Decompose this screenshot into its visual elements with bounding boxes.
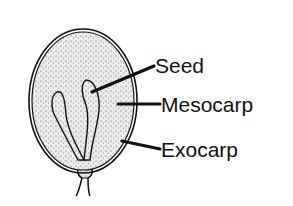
mesocarp xyxy=(32,32,134,170)
exocarp-leader xyxy=(122,141,160,149)
label-seed: Seed xyxy=(155,55,204,76)
label-mesocarp: Mesocarp xyxy=(161,94,253,115)
label-exocarp: Exocarp xyxy=(161,139,238,160)
